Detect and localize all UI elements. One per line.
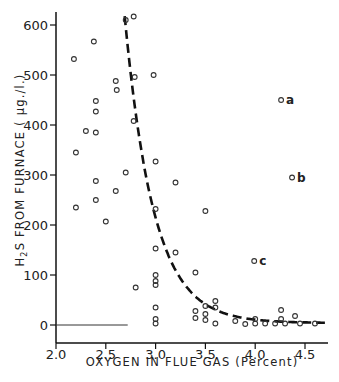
data-point bbox=[298, 321, 303, 326]
data-points bbox=[72, 14, 318, 326]
data-point bbox=[83, 129, 88, 134]
data-point bbox=[151, 73, 156, 78]
data-point bbox=[279, 308, 284, 313]
data-point bbox=[233, 319, 238, 324]
data-point bbox=[193, 316, 198, 321]
outlier-label: a bbox=[286, 93, 294, 107]
outlier-point bbox=[252, 259, 257, 264]
data-point bbox=[153, 246, 158, 251]
outlier-point bbox=[290, 175, 295, 180]
data-point bbox=[153, 159, 158, 164]
data-point bbox=[243, 322, 248, 327]
data-point bbox=[213, 321, 218, 326]
y-axis-title: H2S FROM FURNACE ( µg./l.) bbox=[13, 73, 29, 266]
x-tick-label: 2.0 bbox=[46, 347, 67, 362]
data-point bbox=[113, 79, 118, 84]
x-axis-title: OXYGEN IN FLUE GAS (Percent) bbox=[86, 355, 299, 369]
data-point bbox=[93, 99, 98, 104]
data-point bbox=[103, 219, 108, 224]
data-point bbox=[131, 119, 136, 124]
data-point bbox=[193, 309, 198, 314]
data-point bbox=[131, 14, 136, 19]
y-tick-label: 100 bbox=[23, 268, 48, 283]
outlier-point bbox=[279, 98, 284, 103]
y-axis-ticks: 0100200300400500600 bbox=[23, 18, 56, 333]
data-point bbox=[203, 318, 208, 323]
data-point bbox=[153, 207, 158, 212]
data-point bbox=[173, 250, 178, 255]
data-point bbox=[132, 75, 137, 80]
data-point bbox=[283, 321, 288, 326]
data-point bbox=[153, 273, 158, 278]
data-point bbox=[193, 270, 198, 275]
data-point bbox=[123, 170, 128, 175]
data-point bbox=[173, 180, 178, 185]
y-tick-label: 600 bbox=[23, 18, 48, 33]
data-point bbox=[93, 179, 98, 184]
data-point bbox=[74, 205, 79, 210]
plot-area: 0100200300400500600 2.02.53.03.54.04.5 a… bbox=[23, 12, 328, 362]
data-point bbox=[153, 305, 158, 310]
data-point bbox=[213, 299, 218, 304]
data-point bbox=[72, 57, 77, 62]
data-point bbox=[74, 150, 79, 155]
data-point bbox=[203, 312, 208, 317]
data-point bbox=[93, 130, 98, 135]
y-tick-label: 0 bbox=[40, 318, 48, 333]
data-point bbox=[133, 285, 138, 290]
data-point bbox=[91, 39, 96, 44]
data-point bbox=[93, 198, 98, 203]
data-point bbox=[293, 314, 298, 319]
data-point bbox=[114, 88, 119, 93]
data-point bbox=[93, 109, 98, 114]
outlier-label: b bbox=[297, 171, 306, 185]
labeled-outliers: abc bbox=[252, 93, 306, 268]
outlier-label: c bbox=[259, 254, 266, 268]
data-point bbox=[203, 209, 208, 214]
data-point bbox=[113, 189, 118, 194]
scatter-chart: 0100200300400500600 2.02.53.03.54.04.5 a… bbox=[0, 0, 339, 382]
